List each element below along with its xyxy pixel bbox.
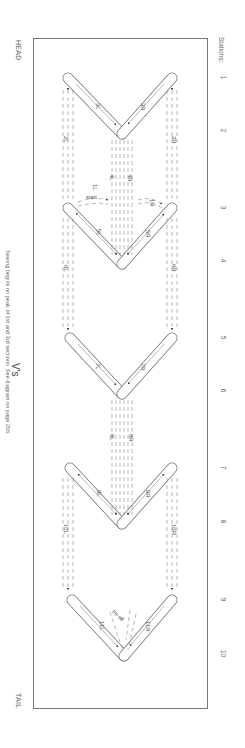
label-3L: 3L (95, 103, 101, 110)
tie-off-label: tie-off (111, 608, 125, 622)
label-4L: 4L (109, 174, 115, 181)
label-6R: 6R (171, 264, 177, 272)
v-shape-1 (68, 78, 172, 134)
label-5R: 5R (145, 230, 151, 238)
dashed-connections (63, 90, 177, 650)
label-8R: 8R (128, 434, 134, 442)
start-label: start (86, 194, 97, 200)
label-8L: 8L (109, 434, 115, 441)
label-7R: 7R (140, 363, 146, 371)
label-3R: 3R (140, 103, 146, 111)
v-shape-4 (70, 468, 172, 524)
v-shape-3 (70, 338, 172, 394)
label-9R: 9R (145, 490, 151, 498)
label-2R: 2R (171, 136, 177, 144)
label-1R: 1R (149, 199, 155, 207)
label-5L: 5L (96, 229, 102, 236)
label-10L: 10L (63, 524, 69, 535)
label-10R: 10R (171, 524, 177, 536)
label-11R: 11R (145, 621, 151, 632)
label-6L: 6L (63, 265, 69, 272)
label-4R: 4R (127, 174, 133, 182)
label-1L: 1L (92, 184, 98, 191)
label-2L: 2L (63, 136, 69, 143)
label-11L: 11L (99, 621, 105, 631)
v-shape-2 (68, 208, 172, 264)
sewing-path-diagram: 3L 3R 2L 2R 4L 4R 1L start 1R 5L 5R 6L 6… (0, 0, 245, 748)
label-9L: 9L (96, 490, 102, 497)
diagram-stage: HEAD TAIL Stations: 1 2 3 4 5 6 7 8 9 10… (0, 0, 245, 748)
label-7L: 7L (95, 363, 101, 370)
